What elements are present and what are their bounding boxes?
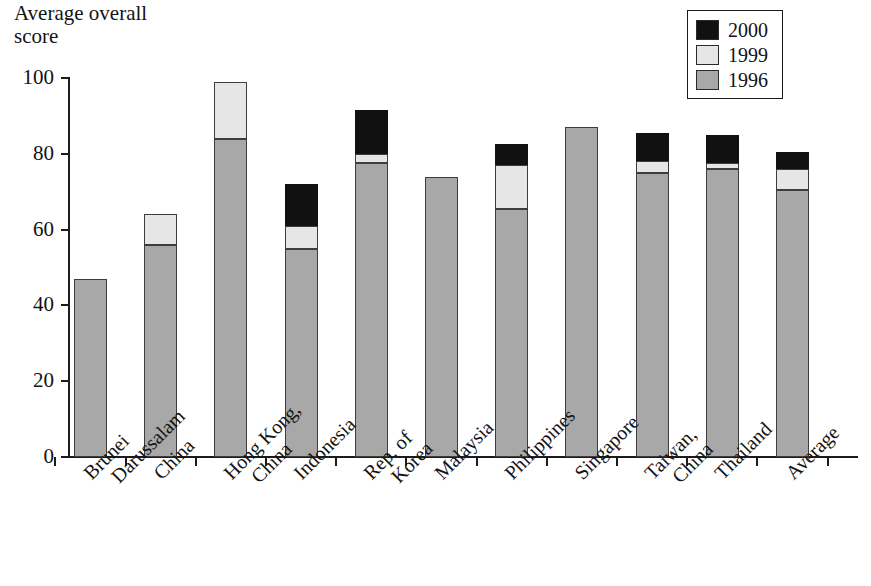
y-axis-line [68, 78, 70, 458]
y-tick-label-40: 40 [0, 294, 54, 315]
legend-item-1999: 1999 [696, 42, 768, 67]
bar-segment-2000 [636, 133, 669, 161]
bar-taiwan-china [636, 78, 669, 457]
legend-item-2000: 2000 [696, 17, 768, 42]
y-tick-label-0: 0 [0, 446, 54, 467]
y-tick-100 [61, 77, 70, 79]
bar-thailand [706, 78, 739, 457]
bar-segment-2000 [776, 152, 809, 169]
bar-philippines [495, 78, 528, 457]
y-tick-40 [61, 304, 70, 306]
bar-segment-1999 [214, 82, 247, 139]
y-tick-60 [61, 229, 70, 231]
y-tick-0 [61, 456, 70, 458]
x-tick-6 [476, 457, 478, 466]
y-tick-label-100: 100 [0, 67, 54, 88]
x-tick-8 [616, 457, 618, 466]
x-tick-7 [546, 457, 548, 466]
bar-malaysia [425, 78, 458, 457]
bar-segment-1996 [495, 209, 528, 457]
bar-segment-1996 [355, 163, 388, 457]
x-tick-10 [756, 457, 758, 466]
bar-singapore [565, 78, 598, 457]
bar-rep-of-korea [355, 78, 388, 457]
y-tick-label-20: 20 [0, 370, 54, 391]
bar-segment-1999 [355, 154, 388, 163]
bar-brunei-darussalam [74, 78, 107, 457]
bar-segment-1999 [636, 161, 669, 172]
bar-segment-2000 [495, 144, 528, 165]
chart-title-line-1: Average overall [14, 1, 147, 25]
x-tick-11 [827, 457, 829, 466]
chart-title: Average overall score [14, 2, 244, 48]
x-tick-2 [195, 457, 197, 466]
bar-segment-1999 [285, 226, 318, 249]
x-tick-0 [54, 457, 56, 466]
bar-segment-1996 [425, 177, 458, 457]
y-tick-20 [61, 380, 70, 382]
bar-segment-2000 [285, 184, 318, 226]
y-tick-label-60: 60 [0, 219, 54, 240]
bar-segment-1999 [144, 214, 177, 244]
legend-label-1999: 1999 [728, 45, 768, 65]
chart-plot-area: Average overall score 2000 1999 1996 020… [0, 0, 871, 586]
bar-segment-1996 [776, 190, 809, 457]
legend-label-2000: 2000 [728, 20, 768, 40]
legend-swatch-1999 [696, 45, 719, 65]
bar-segment-1996 [565, 127, 598, 457]
x-tick-4 [335, 457, 337, 466]
bar-hong-kong-china [214, 78, 247, 457]
y-tick-label-80: 80 [0, 143, 54, 164]
bar-segment-1996 [74, 279, 107, 457]
bar-segment-1996 [706, 169, 739, 457]
bar-segment-1996 [636, 173, 669, 457]
bar-segment-2000 [355, 110, 388, 154]
chart-title-line-2: score [14, 24, 58, 48]
bar-segment-1999 [495, 165, 528, 209]
bar-segment-2000 [706, 135, 739, 163]
bar-segment-1999 [776, 169, 809, 190]
legend-swatch-2000 [696, 20, 719, 40]
bar-segment-1996 [214, 139, 247, 457]
bar-average [776, 78, 809, 457]
y-tick-80 [61, 153, 70, 155]
